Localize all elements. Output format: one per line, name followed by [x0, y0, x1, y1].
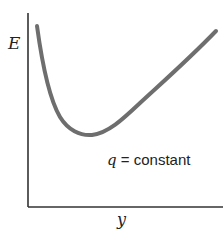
annotation-text: = constant	[121, 151, 191, 168]
constant-annotation: q = constant	[107, 151, 190, 169]
annotation-variable: q	[107, 151, 117, 169]
diagram-canvas	[0, 0, 223, 231]
y-axis-label: E	[8, 33, 20, 53]
x-axis-label: y	[117, 210, 126, 229]
energy-curve	[37, 26, 216, 135]
